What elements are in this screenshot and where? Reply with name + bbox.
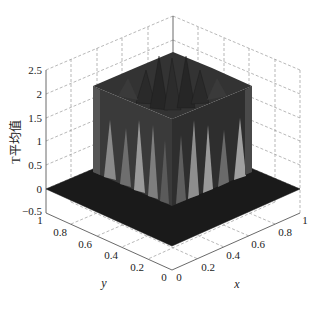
svg-text:0: 0 [37, 183, 43, 195]
svg-text:0.8: 0.8 [53, 226, 67, 238]
svg-text:1: 1 [37, 135, 43, 147]
svg-text:0: 0 [161, 271, 167, 283]
svg-text:0.2: 0.2 [130, 261, 144, 273]
svg-text:1: 1 [302, 214, 308, 226]
y-axis-label: y [100, 276, 107, 290]
svg-text:0.2: 0.2 [201, 261, 215, 273]
svg-text:0.6: 0.6 [78, 238, 92, 250]
svg-text:0: 0 [176, 271, 182, 283]
svg-text:2.5: 2.5 [28, 64, 42, 76]
z-axis-label: T平均值 [8, 120, 23, 163]
z-axis-ticks: 2.5 2 1.5 1 0.5 0 −0.5 [22, 64, 42, 217]
svg-text:0.4: 0.4 [104, 249, 118, 261]
svg-text:0.4: 0.4 [226, 249, 240, 261]
x-axis-label: x [233, 277, 240, 291]
svg-text:1.5: 1.5 [28, 112, 42, 124]
svg-text:0.6: 0.6 [251, 238, 265, 250]
svg-text:1: 1 [37, 214, 43, 226]
svg-text:2: 2 [37, 88, 43, 100]
svg-text:0.5: 0.5 [28, 159, 42, 171]
surface-plot: 2.5 2 1.5 1 0.5 0 −0.5 1 0.8 0.6 0.4 0.2… [0, 0, 317, 309]
svg-text:0.8: 0.8 [278, 226, 292, 238]
